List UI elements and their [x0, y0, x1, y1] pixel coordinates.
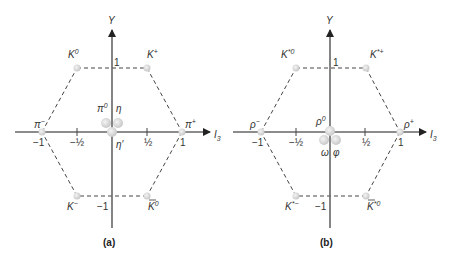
particle-K0-bar: K0 — [148, 200, 159, 212]
diagram-a-pseudoscalar-nonet: Y I3 1 −1 −1 −½ ½ 1 K0 K+ π− π+ π0 η η′ … — [15, 15, 221, 248]
particle-piminus: π− — [34, 118, 45, 130]
svg-text:K*0: K*0 — [367, 200, 380, 212]
meson-octet-diagrams: Y I3 1 −1 −1 −½ ½ 1 K0 K+ π− π+ π0 η η′ … — [0, 0, 461, 260]
particle-Kstarminus: K*− — [285, 200, 298, 212]
x-tick-plus-half: ½ — [144, 137, 153, 148]
x-tick-1: 1 — [180, 137, 186, 148]
x-tick-minus-1: −1 — [252, 137, 264, 148]
particle-rhoplus: ρ+ — [403, 118, 414, 130]
y-axis-label: Y — [108, 15, 116, 26]
y-axis-label: Y — [326, 15, 334, 26]
particle-piplus: π+ — [185, 118, 196, 130]
particle-Kminus: K− — [67, 200, 78, 212]
x-tick-minus-half: −½ — [70, 137, 85, 148]
caption-b: (b) — [320, 237, 333, 248]
y-tick-1: 1 — [333, 57, 339, 68]
caption-a: (a) — [103, 237, 115, 248]
particle-eta-prime: η′ — [116, 139, 125, 150]
particle-Kstarplus: K*+ — [370, 48, 383, 60]
i3-axis-label: I3 — [430, 129, 437, 142]
y-tick-1: 1 — [114, 57, 120, 68]
particle-pi0: π0 — [97, 102, 108, 114]
particle-rho0: ρ0 — [315, 115, 326, 127]
particle-K0: K0 — [68, 48, 79, 60]
x-tick-minus-half: −½ — [289, 137, 304, 148]
diagram-b-vector-nonet: Y I3 1 −1 −1 −½ ½ 1 K*0 K*+ ρ− ρ+ ρ0 ω φ… — [233, 15, 437, 248]
x-tick-1: 1 — [398, 137, 404, 148]
particle-omega: ω — [321, 147, 329, 158]
particle-Kstar0-bar: K*0 — [367, 200, 380, 212]
particle-Kplus: K+ — [147, 48, 158, 60]
x-tick-minus-1: −1 — [33, 137, 45, 148]
particle-phi: φ — [333, 147, 340, 158]
particle-rhominus: ρ− — [249, 118, 260, 130]
x-tick-plus-half: ½ — [362, 137, 371, 148]
particle-Kstar0: K*0 — [281, 48, 294, 60]
svg-text:K0: K0 — [148, 200, 159, 212]
i3-axis-label: I3 — [214, 129, 221, 142]
particle-eta: η — [116, 103, 122, 114]
y-tick-minus-1: −1 — [97, 201, 109, 212]
y-tick-minus-1: −1 — [315, 201, 327, 212]
